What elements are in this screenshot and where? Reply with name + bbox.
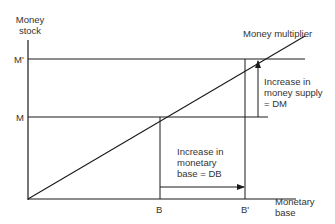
money-supply-annotation: Increase in money supply = DM xyxy=(264,76,323,109)
x-axis-label: Monetary base xyxy=(275,196,315,218)
money-supply-annotation-line1: Increase in xyxy=(264,76,323,87)
m-prime-tick-label: M' xyxy=(14,54,24,65)
b-tick-label: B xyxy=(156,204,162,215)
monetary-base-annotation-line1: Increase in xyxy=(177,146,223,157)
y-axis-label-line1: Money xyxy=(10,14,50,25)
money-supply-annotation-line3: = DM xyxy=(264,98,323,109)
money-multiplier-label: Money multiplier xyxy=(243,28,312,39)
money-supply-annotation-line2: money supply xyxy=(264,87,323,98)
monetary-base-annotation-line2: monetary xyxy=(177,157,223,168)
monetary-base-annotation-line3: base = DB xyxy=(177,168,223,179)
y-axis-label-line2: stock xyxy=(10,25,50,36)
monetary-base-annotation: Increase in monetary base = DB xyxy=(177,146,223,179)
b-prime-tick-label: B' xyxy=(241,204,249,215)
x-axis-label-line1: Monetary xyxy=(275,196,315,207)
y-axis-label: Money stock xyxy=(10,14,50,36)
x-axis-label-line2: base xyxy=(275,207,315,218)
m-tick-label: M xyxy=(16,112,24,123)
